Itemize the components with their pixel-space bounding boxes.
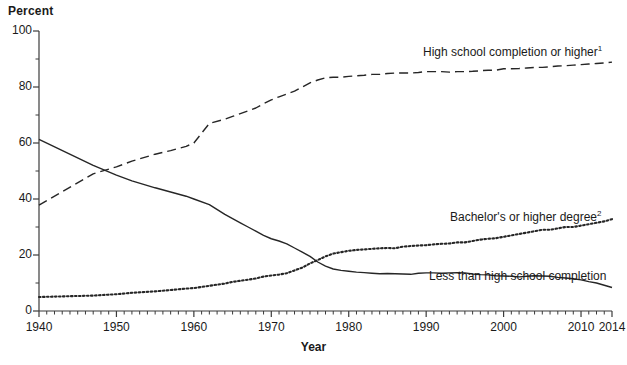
x-tick-label: 2014 <box>582 320 627 334</box>
y-tick-label: 60 <box>2 135 32 149</box>
series-line-2 <box>39 219 612 297</box>
y-tick-label: 0 <box>2 303 32 317</box>
x-tick-label: 1990 <box>396 320 456 334</box>
x-tick-label: 1940 <box>9 320 69 334</box>
chart-figure: Percent Year 020406080100194019501960197… <box>0 0 627 365</box>
x-tick-label: 2000 <box>474 320 534 334</box>
series-label-0: High school completion or higher1 <box>423 44 602 59</box>
y-tick-label: 20 <box>2 247 32 261</box>
y-tick-label: 100 <box>2 23 32 37</box>
x-tick-label: 1980 <box>319 320 379 334</box>
series-footnote-marker-0: 1 <box>598 44 602 53</box>
series-footnote-marker-2: 2 <box>597 209 601 218</box>
x-tick-label: 1970 <box>241 320 301 334</box>
series-label-1: Less than high school completion <box>429 269 606 283</box>
y-tick-label: 80 <box>2 79 32 93</box>
x-tick-label: 1960 <box>164 320 224 334</box>
series-label-2: Bachelor's or higher degree2 <box>450 209 602 224</box>
series-line-0 <box>39 62 612 205</box>
x-tick-label: 1950 <box>86 320 146 334</box>
y-tick-label: 40 <box>2 191 32 205</box>
